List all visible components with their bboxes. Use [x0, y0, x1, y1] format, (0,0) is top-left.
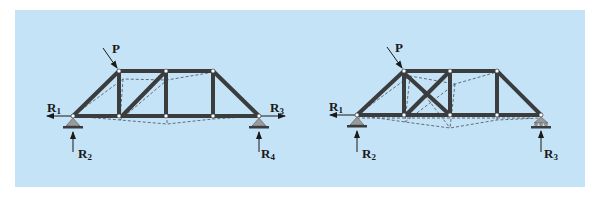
load-label: P: [395, 40, 403, 55]
right-truss-members: [357, 71, 541, 115]
left-pin-support: [63, 118, 83, 129]
r3-label: R3: [270, 100, 284, 116]
right-roller-support: [531, 117, 551, 129]
r3-label: R3: [544, 146, 558, 162]
left-truss-members: [73, 71, 259, 116]
r1-label: R1: [329, 99, 343, 115]
r2-label: R2: [362, 146, 376, 162]
left-truss: P R1 R2 R3 R4: [47, 41, 285, 162]
left-end-diagonal: [357, 71, 404, 115]
interior-diagonal: [122, 71, 166, 116]
r4-label: R4: [261, 146, 275, 162]
left-end-diagonal: [73, 71, 119, 116]
right-end-diagonal: [497, 71, 541, 115]
r2-label: R2: [78, 146, 92, 162]
right-pin-support: [249, 118, 269, 129]
right-truss: P R1 R2 R3: [329, 40, 558, 162]
right-end-diagonal: [213, 71, 259, 116]
r1-label: R1: [47, 100, 61, 116]
truss-figure: P R1 R2 R3 R4: [0, 0, 601, 197]
load-label: P: [112, 41, 120, 56]
left-pin-support: [347, 117, 367, 128]
